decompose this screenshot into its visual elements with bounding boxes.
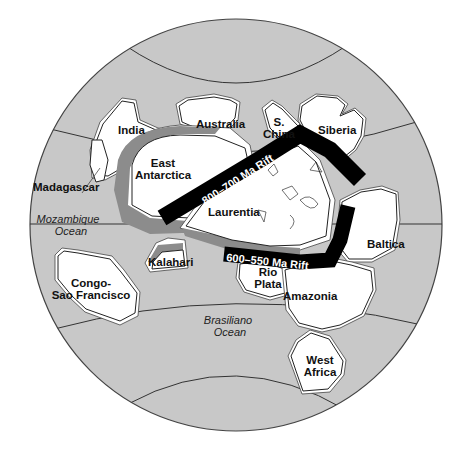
label-laurentia: Laurentia bbox=[208, 206, 260, 218]
label-rio-plata-2: Plata bbox=[254, 278, 282, 290]
label-s-china-1: S. bbox=[274, 116, 285, 128]
label-kalahari: Kalahari bbox=[148, 256, 193, 268]
label-west-africa-1: West bbox=[306, 354, 333, 366]
label-baltica: Baltica bbox=[367, 238, 405, 250]
label-east-antarctica-1: East bbox=[151, 157, 175, 169]
label-east-antarctica-2: Antarctica bbox=[135, 169, 192, 181]
paleogeographic-map: 800–700 Ma Rift 600–550 Ma Rift India Au… bbox=[0, 0, 468, 449]
label-brasiliano-ocean-1: Brasiliano bbox=[204, 314, 252, 326]
label-siberia: Siberia bbox=[318, 124, 357, 136]
label-rio-plata-1: Rio bbox=[259, 266, 278, 278]
label-congo-1: Congo- bbox=[71, 277, 111, 289]
label-madagascar: Madagascar bbox=[33, 181, 100, 193]
label-india: India bbox=[118, 124, 145, 136]
label-australia: Australia bbox=[196, 118, 246, 130]
label-west-africa-2: Africa bbox=[304, 366, 337, 378]
label-brasiliano-ocean-2: Ocean bbox=[214, 326, 246, 338]
label-congo-2: Sao Francisco bbox=[52, 289, 131, 301]
label-amazonia: Amazonia bbox=[283, 290, 338, 302]
label-mozambique-ocean-1: Mozambique bbox=[37, 213, 100, 225]
label-s-china-2: China bbox=[263, 128, 296, 140]
label-mozambique-ocean-2: Ocean bbox=[55, 225, 87, 237]
